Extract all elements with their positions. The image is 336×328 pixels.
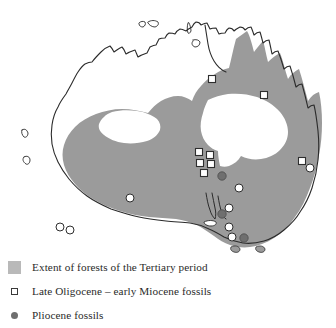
fossil-square-marker[interactable] [209,76,216,83]
fossil-square-marker[interactable] [197,160,204,167]
legend-label-oligocene-miocene: Late Oligocene – early Miocene fossils [32,285,211,297]
fossil-circle-marker[interactable] [225,223,233,231]
kangaroo-island [204,221,216,227]
pliocene-circle-marker[interactable] [218,210,226,218]
fossil-square-marker[interactable] [261,92,268,99]
map-svg [0,0,336,256]
legend-label-pliocene: Pliocene fossils [32,309,104,321]
filled-circle-icon [7,308,21,322]
fossil-circle-marker[interactable] [228,233,236,241]
fossil-square-marker[interactable] [196,149,203,156]
legend-item-forest-extent: Extent of forests of the Tertiary period [7,260,208,274]
legend-label-forest-extent: Extent of forests of the Tertiary period [32,261,208,273]
fossil-circle-marker[interactable] [306,164,314,172]
fossil-circle-marker[interactable] [225,204,233,212]
fossil-square-marker[interactable] [207,152,214,159]
legend-item-oligocene-miocene: Late Oligocene – early Miocene fossils [7,284,211,298]
legend-item-pliocene: Pliocene fossils [7,308,104,322]
west-coast-inlet-upper [22,129,28,137]
melville-island-detail [148,21,158,28]
fossil-circle-marker[interactable] [66,226,74,234]
gray-swatch-icon [7,260,21,274]
pliocene-circle-marker[interactable] [240,234,248,242]
fossil-circle-marker[interactable] [56,223,64,231]
map-figure: Extent of forests of the Tertiary period… [0,0,336,328]
arnhem-land-detail [139,21,145,27]
australia-map [0,0,336,256]
west-coast-inlet-lower [23,156,30,164]
fossil-square-marker[interactable] [208,161,215,168]
bass-strait-island-left [231,246,240,252]
gulf-of-carpentaria [205,25,226,72]
pliocene-circle-marker[interactable] [218,172,226,180]
open-square-icon [7,284,21,298]
fossil-square-marker[interactable] [201,170,208,177]
fossil-circle-marker[interactable] [235,184,243,192]
fossil-square-marker[interactable] [299,158,306,165]
bass-strait-island-right [256,246,265,252]
fossil-circle-marker[interactable] [126,194,134,202]
groote-island-detail [192,40,200,47]
map-legend: Extent of forests of the Tertiary period… [0,256,336,328]
